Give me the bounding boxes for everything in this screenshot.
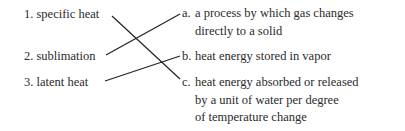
definition-line: heat energy stored in vapor	[195, 48, 331, 66]
term-2: 2. sublimation	[24, 48, 96, 65]
term-number: 3.	[24, 75, 33, 89]
term-number: 2.	[24, 49, 33, 63]
definition-letter: b.	[182, 48, 191, 66]
term-1: 1. specific heat	[24, 6, 99, 23]
definition-a: a. a process by which gas changes direct…	[182, 5, 402, 41]
definition-line: heat energy absorbed or released	[195, 74, 359, 92]
definition-letter: c.	[182, 74, 191, 92]
definition-line: a process by which gas changes	[195, 5, 354, 23]
definition-line: by a unit of water per degree	[195, 92, 359, 110]
definition-line: directly to a solid	[195, 23, 354, 41]
term-number: 1.	[24, 7, 33, 21]
term-3: 3. latent heat	[24, 74, 88, 91]
match-line-1-c	[112, 16, 180, 79]
definition-c: c. heat energy absorbed or released by a…	[182, 74, 402, 128]
definition-b: b. heat energy stored in vapor	[182, 48, 402, 66]
term-label: specific heat	[37, 7, 100, 21]
definition-letter: a.	[182, 5, 191, 23]
term-label: latent heat	[37, 75, 89, 89]
definition-line: of temperature change	[195, 109, 359, 127]
term-label: sublimation	[37, 49, 96, 63]
